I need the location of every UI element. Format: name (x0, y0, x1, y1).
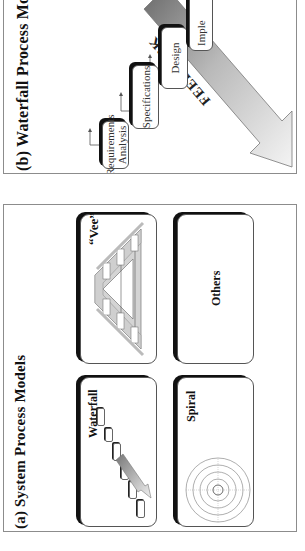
step-specifications[interactable]: Specifications (132, 65, 159, 129)
mini-feedback-arrow-icon (81, 376, 158, 526)
panel-waterfall-process-model: (b) Waterfall Process Model FEEDBACK Req… (3, 0, 297, 174)
step-design[interactable]: Design (161, 27, 188, 89)
panel-a-title: (a) System Process Models (12, 355, 29, 529)
card-waterfall[interactable]: Waterfall (80, 377, 157, 527)
step-specifications-label: Specifications (140, 66, 152, 128)
step-implementation[interactable]: Imple (189, 0, 213, 51)
card-others-label: Others (209, 271, 224, 306)
panel-system-process-models: (a) System Process Models Waterfall (3, 204, 297, 532)
step-requirements-analysis[interactable]: Requirements Analysis (102, 121, 129, 169)
spiral-diagram-icon (178, 376, 255, 526)
figure-stage: (a) System Process Models Waterfall (0, 0, 305, 551)
waterfall-thumbnail (81, 376, 158, 526)
step-implementation-label: Imple (195, 20, 207, 46)
step-requirements-line1: Requirements (104, 114, 116, 174)
card-others[interactable]: Others (177, 214, 254, 364)
card-vee[interactable]: “Vee” (80, 214, 157, 364)
card-spiral[interactable]: Spiral (177, 377, 254, 527)
vee-diagram-icon (81, 213, 158, 363)
step-design-label: Design (169, 42, 181, 73)
step-requirements-line2: Analysis (116, 126, 128, 165)
